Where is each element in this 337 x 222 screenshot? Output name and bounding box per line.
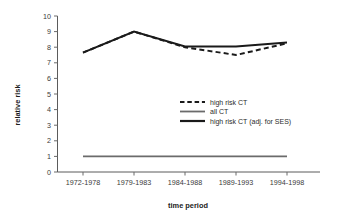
legend-item-high-risk-ct-adj-ses: high risk CT (adj. for SES) <box>180 118 291 126</box>
x-axis-ticks: 1972-1978 1979-1983 1984-1988 1989-1993 … <box>66 172 304 187</box>
y-tick-label: 9 <box>47 27 51 36</box>
legend-label: high risk CT <box>210 99 248 107</box>
y-tick-label: 8 <box>47 43 51 52</box>
y-tick-label: 4 <box>47 105 51 114</box>
legend-label: high risk CT (adj. for SES) <box>210 118 291 126</box>
y-axis-ticks: 0 1 2 3 4 5 6 7 8 9 10 <box>43 12 58 177</box>
y-tick-label: 3 <box>47 121 51 130</box>
y-tick-label: 1 <box>47 152 51 161</box>
y-tick-label: 10 <box>43 12 51 21</box>
chart-legend: high risk CT all CT high risk CT (adj. f… <box>180 99 291 126</box>
x-tick-label: 1979-1983 <box>117 178 151 187</box>
x-tick-label: 1984-1988 <box>168 178 202 187</box>
x-tick-label: 1989-1993 <box>219 178 253 187</box>
x-axis-title: time period <box>168 201 208 210</box>
y-tick-label: 6 <box>47 74 51 83</box>
y-tick-label: 2 <box>47 136 51 145</box>
legend-item-high-risk-ct: high risk CT <box>180 99 248 107</box>
y-tick-label: 5 <box>47 90 51 99</box>
relative-risk-line-chart: 0 1 2 3 4 5 6 7 8 9 10 1972-197 <box>0 0 337 222</box>
series-high-risk-ct <box>83 32 287 55</box>
chart-canvas: 0 1 2 3 4 5 6 7 8 9 10 1972-197 <box>0 0 337 222</box>
y-tick-label: 7 <box>47 58 51 67</box>
legend-item-all-ct: all CT <box>180 108 229 115</box>
y-axis-title: relative risk <box>13 84 22 126</box>
x-tick-label: 1972-1978 <box>66 178 100 187</box>
x-tick-label: 1994-1998 <box>270 178 304 187</box>
y-tick-label: 0 <box>47 168 51 177</box>
legend-label: all CT <box>210 108 229 115</box>
